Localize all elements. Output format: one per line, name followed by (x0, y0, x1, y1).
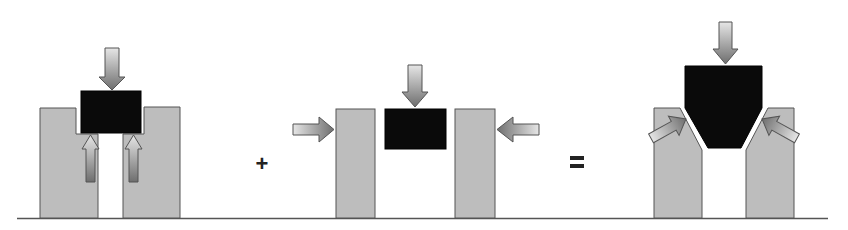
down-arrow-icon (402, 65, 428, 107)
panel-2-lateral-squeeze (293, 65, 539, 218)
down-arrow-icon (713, 22, 738, 64)
black-block (385, 109, 446, 149)
equals-operator (570, 156, 584, 168)
right-arrow-icon (293, 117, 334, 142)
tapered-black-block (685, 66, 762, 148)
right-pillar (455, 109, 495, 218)
left-pillar (336, 109, 375, 218)
plus-operator: + (256, 151, 269, 176)
force-composition-diagram: + = (0, 0, 848, 230)
panel-1-vertical-load (40, 48, 180, 218)
left-arrow-icon (497, 117, 539, 142)
panel-3-wedge-seated (646, 22, 803, 218)
down-arrow-icon (99, 48, 125, 90)
black-block (81, 91, 141, 133)
